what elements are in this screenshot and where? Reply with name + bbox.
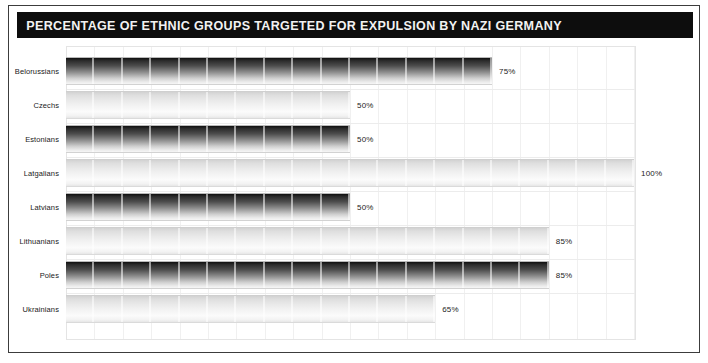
chart-row: Lithuanians85% (9, 224, 701, 258)
chart-row: Latgalians100% (9, 156, 701, 190)
category-label-latvians: Latvians (9, 203, 65, 212)
chart-row: Ukrainians65% (9, 292, 701, 326)
bar-value-label: 75% (499, 67, 516, 76)
category-label-ukrainians: Ukrainians (9, 305, 65, 314)
bar-value-label: 85% (556, 237, 573, 246)
bar-gridline-overlay (66, 160, 634, 186)
bar-gridline-overlay (66, 228, 549, 254)
category-label-lithuanians: Lithuanians (9, 237, 65, 246)
bar-gridline-overlay (66, 126, 350, 152)
bar-gridline-overlay (66, 296, 435, 322)
category-label-estonians: Estonians (9, 135, 65, 144)
bar-value-label: 65% (442, 305, 459, 314)
category-label-czechs: Czechs (9, 101, 65, 110)
page-title: PERCENTAGE OF ETHNIC GROUPS TARGETED FOR… (17, 18, 562, 33)
chart-row: Belorussians75% (9, 54, 701, 88)
bar-poles[interactable]: 85% (66, 261, 549, 289)
bar-gridline-overlay (66, 194, 350, 220)
bar-value-label: 50% (357, 135, 374, 144)
bar-value-label: 100% (641, 169, 662, 178)
chart-frame: PERCENTAGE OF ETHNIC GROUPS TARGETED FOR… (8, 5, 700, 353)
category-label-belorussians: Belorussians (9, 67, 65, 76)
chart-title-bar: PERCENTAGE OF ETHNIC GROUPS TARGETED FOR… (17, 12, 693, 38)
bar-track: 50% (66, 190, 634, 224)
bar-rows: Belorussians75%Czechs50%Estonians50%Latg… (9, 54, 701, 326)
chart-row: Poles85% (9, 258, 701, 292)
chart-row: Estonians50% (9, 122, 701, 156)
bar-value-label: 85% (556, 271, 573, 280)
bar-track: 85% (66, 258, 634, 292)
bar-value-label: 50% (357, 101, 374, 110)
bar-lithuanians[interactable]: 85% (66, 227, 549, 255)
chart-row: Latvians50% (9, 190, 701, 224)
bar-track: 50% (66, 122, 634, 156)
bar-track: 100% (66, 156, 634, 190)
bar-gridline-overlay (66, 92, 350, 118)
chart-row: Czechs50% (9, 88, 701, 122)
bar-latgalians[interactable]: 100% (66, 159, 634, 187)
bar-gridline-overlay (66, 262, 549, 288)
bar-track: 85% (66, 224, 634, 258)
bar-latvians[interactable]: 50% (66, 193, 350, 221)
chart-body: Belorussians75%Czechs50%Estonians50%Latg… (9, 46, 701, 346)
bar-track: 50% (66, 88, 634, 122)
bar-ukrainians[interactable]: 65% (66, 295, 435, 323)
bar-gridline-overlay (66, 58, 492, 84)
category-label-latgalians: Latgalians (9, 169, 65, 178)
category-label-poles: Poles (9, 271, 65, 280)
bar-track: 65% (66, 292, 634, 326)
bar-estonians[interactable]: 50% (66, 125, 350, 153)
bar-track: 75% (66, 54, 634, 88)
bar-value-label: 50% (357, 203, 374, 212)
bar-czechs[interactable]: 50% (66, 91, 350, 119)
bar-belorussians[interactable]: 75% (66, 57, 492, 85)
